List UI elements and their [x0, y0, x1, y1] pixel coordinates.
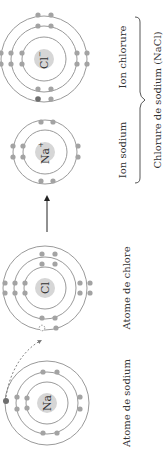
valence-electron: [3, 398, 9, 404]
label-chloride-ion: Ion chlorure: [117, 26, 128, 89]
sodium-symbol: Na: [41, 394, 54, 411]
sodium-atom: Na: [3, 361, 89, 445]
sodium-ion: Na+: [10, 119, 80, 184]
grouping-brace: [135, 17, 145, 183]
label-sodium-chloride: Chlorure de sodium (NaCl): [152, 31, 163, 168]
label-sodium-atom: Atome de sodium: [121, 359, 132, 448]
chloride-ion: Cl−: [0, 12, 90, 102]
gained-electron: [35, 96, 41, 102]
label-sodium-ion: Ion sodium: [117, 121, 128, 178]
chlorine-atom: Cl: [2, 246, 92, 331]
label-chlorine-atom: Atome de chlore: [121, 246, 132, 330]
ionic-bond-diagram: Na Cl Na+: [0, 0, 166, 450]
chlorine-symbol: Cl: [39, 282, 52, 294]
electron-vacancy: [39, 325, 45, 331]
